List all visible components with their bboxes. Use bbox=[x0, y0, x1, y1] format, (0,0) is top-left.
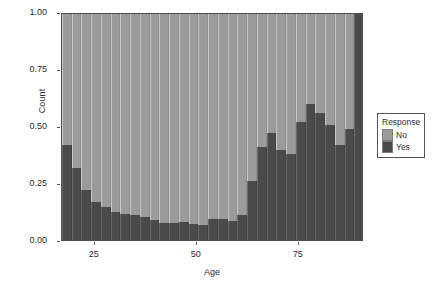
bar-segment-no bbox=[208, 14, 218, 219]
bar-segment-yes bbox=[208, 219, 218, 240]
bar-segment-no bbox=[237, 14, 247, 215]
bar-segment-yes bbox=[335, 145, 345, 240]
bar-column bbox=[208, 14, 218, 240]
bar-segment-yes bbox=[345, 129, 355, 240]
legend-items: NoYes bbox=[382, 129, 420, 153]
bar-segment-no bbox=[306, 14, 316, 104]
bar-segment-yes bbox=[198, 225, 208, 240]
bar-segment-yes bbox=[228, 221, 238, 240]
bar-segment-no bbox=[247, 14, 257, 181]
bar-segment-yes bbox=[257, 147, 267, 240]
legend-item-yes: Yes bbox=[382, 141, 420, 153]
bar-segment-no bbox=[267, 14, 277, 133]
bar-segment-no bbox=[218, 14, 228, 219]
bar-segment-no bbox=[120, 14, 130, 214]
bar-segment-no bbox=[62, 14, 72, 145]
y-tick-label: 0.25 bbox=[13, 178, 47, 188]
bar-segment-yes bbox=[247, 181, 257, 240]
bar-column bbox=[159, 14, 169, 240]
bar-segment-no bbox=[150, 14, 160, 220]
bar-column bbox=[325, 14, 335, 240]
bar-segment-yes bbox=[72, 168, 82, 240]
bar-segment-no bbox=[325, 14, 335, 125]
bar-segment-no bbox=[345, 14, 355, 129]
bar-column bbox=[306, 14, 316, 240]
bar-segment-yes bbox=[286, 154, 296, 240]
bar-segment-yes bbox=[150, 220, 160, 240]
bar-segment-no bbox=[72, 14, 82, 168]
bar-segment-no bbox=[101, 14, 111, 207]
bar-segment-yes bbox=[62, 145, 72, 240]
y-tick-label: 0.00 bbox=[13, 235, 47, 245]
bar-segment-no bbox=[276, 14, 286, 150]
bar-column bbox=[267, 14, 277, 240]
bar-column bbox=[276, 14, 286, 240]
bar-segment-yes bbox=[237, 215, 247, 240]
bar-segment-no bbox=[81, 14, 91, 190]
y-tick-label: 0.50 bbox=[13, 121, 47, 131]
bar-segment-yes bbox=[354, 14, 363, 240]
bar-segment-no bbox=[159, 14, 169, 223]
bar-column bbox=[286, 14, 296, 240]
legend-title: Response bbox=[382, 117, 420, 127]
bar-segment-no bbox=[189, 14, 199, 224]
bar-segment-no bbox=[315, 14, 325, 113]
bar-column bbox=[198, 14, 208, 240]
bar-column bbox=[247, 14, 257, 240]
chart-container: Count 0.000.250.500.751.00 255075 Age Re… bbox=[0, 0, 437, 291]
bar-segment-yes bbox=[189, 224, 199, 240]
x-tick-mark bbox=[94, 242, 95, 245]
legend-label-no: No bbox=[396, 130, 407, 140]
x-tick-label: 75 bbox=[280, 249, 316, 259]
bar-segment-yes bbox=[296, 122, 306, 240]
bar-column bbox=[81, 14, 91, 240]
bar-segment-yes bbox=[169, 223, 179, 240]
bar-segment-yes bbox=[267, 133, 277, 240]
legend-item-no: No bbox=[382, 129, 420, 141]
bar-segment-no bbox=[111, 14, 121, 212]
legend: Response NoYes bbox=[377, 113, 425, 158]
bar-segment-yes bbox=[130, 215, 140, 240]
bar-segment-no bbox=[228, 14, 238, 221]
bar-segment-yes bbox=[315, 113, 325, 240]
y-tick-mark bbox=[57, 13, 60, 14]
bar-column bbox=[228, 14, 238, 240]
bar-segment-yes bbox=[140, 217, 150, 240]
bar-segment-no bbox=[140, 14, 150, 217]
bar-segment-no bbox=[91, 14, 101, 202]
bar-column bbox=[189, 14, 199, 240]
y-tick-mark bbox=[57, 127, 60, 128]
bar-segment-no bbox=[257, 14, 267, 147]
y-tick-mark bbox=[57, 70, 60, 71]
bar-segment-yes bbox=[306, 104, 316, 240]
x-tick-mark bbox=[196, 242, 197, 245]
bar-segment-yes bbox=[159, 223, 169, 240]
bar-column bbox=[101, 14, 111, 240]
y-tick-label: 1.00 bbox=[13, 7, 47, 17]
bar-column bbox=[140, 14, 150, 240]
y-tick-mark bbox=[57, 241, 60, 242]
bar-column bbox=[72, 14, 82, 240]
bar-column bbox=[315, 14, 325, 240]
bar-column bbox=[150, 14, 160, 240]
bar-segment-no bbox=[335, 14, 345, 145]
bar-column bbox=[111, 14, 121, 240]
legend-label-yes: Yes bbox=[396, 142, 410, 152]
bar-segment-yes bbox=[276, 150, 286, 240]
bar-segment-no bbox=[169, 14, 179, 223]
bar-segment-yes bbox=[120, 214, 130, 240]
x-tick-label: 50 bbox=[178, 249, 214, 259]
bar-column bbox=[169, 14, 179, 240]
bar-segment-no bbox=[296, 14, 306, 122]
x-axis-title: Age bbox=[61, 267, 363, 277]
legend-swatch-yes bbox=[382, 141, 393, 153]
bar-segment-no bbox=[130, 14, 140, 215]
bar-segment-yes bbox=[91, 202, 101, 240]
x-tick-mark bbox=[298, 242, 299, 245]
bar-segment-yes bbox=[218, 219, 228, 240]
bar-column bbox=[345, 14, 355, 240]
bar-column bbox=[130, 14, 140, 240]
bar-column bbox=[91, 14, 101, 240]
bar-column bbox=[237, 14, 247, 240]
legend-swatch-no bbox=[382, 129, 393, 141]
